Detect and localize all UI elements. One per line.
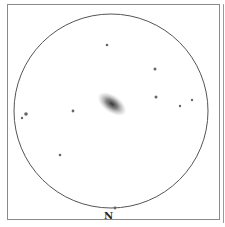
star-marker: [24, 112, 28, 116]
star-marker: [179, 105, 181, 107]
galaxy-object: [93, 87, 131, 121]
star-field: [0, 0, 225, 227]
star-marker: [191, 99, 193, 101]
star-marker: [72, 110, 75, 113]
star-marker: [155, 96, 158, 99]
north-label: N: [104, 210, 113, 221]
star-marker: [106, 44, 109, 47]
stars-group: [21, 44, 193, 210]
star-marker: [21, 117, 23, 119]
star-marker: [59, 154, 62, 157]
star-marker: [154, 68, 157, 71]
star-marker: [114, 207, 117, 210]
